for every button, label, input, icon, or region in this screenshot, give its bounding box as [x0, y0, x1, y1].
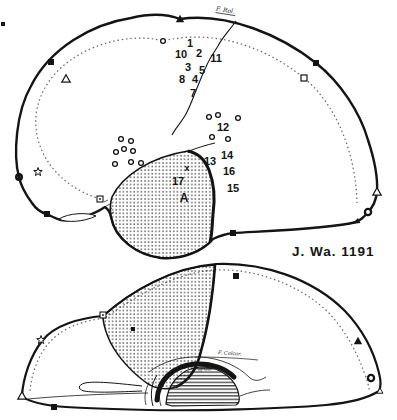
point-number-4: 4: [192, 73, 199, 85]
stimulation-point: [131, 149, 136, 154]
point-number-15: 15: [227, 182, 239, 194]
point-number-1: 1: [187, 37, 193, 49]
stimulation-point: [226, 137, 231, 142]
marker-bold-ring: [368, 375, 374, 381]
marker-open-square: [301, 75, 307, 81]
marker-filled-square: [44, 211, 50, 217]
figure-canvas: 1 10 2 11 3 5 8 4 7 12 13 14 16 15 17 A …: [0, 0, 397, 420]
marker-dotted-square: [100, 312, 106, 318]
stimulation-point: [122, 147, 127, 152]
bottom-medial-view: F. Calcar. V. of Gal.: [18, 264, 383, 410]
point-number-7: 7: [190, 87, 196, 99]
marker-bold-ring: [365, 209, 371, 215]
point-number-2: 2: [196, 47, 202, 59]
stimulation-point: [139, 161, 144, 166]
stimulation-point: [236, 116, 241, 121]
stimulation-point: [114, 150, 119, 155]
stimulation-point: [113, 162, 118, 167]
marker-filled-square: [230, 230, 236, 236]
marker-dotted-square: [97, 196, 103, 202]
point-number-16: 16: [223, 165, 235, 177]
stimulation-point: [210, 135, 215, 140]
point-number-8: 8: [179, 73, 185, 85]
point-number-10: 10: [175, 48, 187, 60]
stimulation-point: [207, 115, 212, 120]
marker-filled-square: [48, 59, 54, 65]
marker-filled-square: [313, 60, 319, 66]
point-number-5: 5: [199, 64, 205, 76]
case-number-label: J. Wa. 1191: [292, 244, 375, 259]
letter-a-label: A: [180, 191, 189, 205]
point-number-14: 14: [221, 149, 234, 161]
marker-filled-square: [233, 273, 239, 279]
marker-filled-square: [51, 404, 57, 410]
top-lateral-view: 1 10 2 11 3 5 8 4 7 12 13 14 16 15 17 A …: [1, 4, 381, 258]
stimulation-point: [216, 113, 221, 118]
stimulation-point: [161, 39, 166, 44]
stimulation-point: [129, 160, 134, 165]
point-number-17: 17: [172, 175, 184, 187]
point-number-11: 11: [210, 52, 222, 64]
stimulation-point: [129, 139, 134, 144]
print-artifact: [1, 22, 5, 26]
stimulation-point: [119, 137, 124, 142]
point-number-3: 3: [185, 61, 191, 73]
point-number-13: 13: [204, 155, 216, 167]
marker-in-excision: [131, 327, 135, 331]
point-number-12: 12: [217, 121, 229, 133]
x-mark: x: [184, 163, 189, 173]
